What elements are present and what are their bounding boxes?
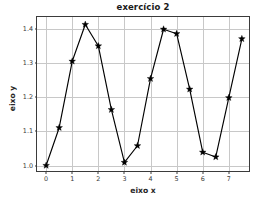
y-tick-label: 1.1 (23, 127, 33, 135)
data-point-marker (43, 162, 50, 168)
x-tick-mark (202, 171, 203, 174)
x-tick-label: 7 (227, 175, 231, 183)
y-axis-label: eixo y (8, 69, 17, 129)
data-point-marker (134, 142, 141, 148)
series-markers (43, 21, 245, 168)
y-tick-label: 1.4 (23, 25, 33, 33)
series-line (46, 24, 242, 165)
x-tick-mark (150, 171, 151, 174)
data-point-marker (56, 124, 63, 130)
y-tick-label: 1.0 (23, 162, 33, 170)
x-tick-mark (228, 171, 229, 174)
data-point-marker (212, 153, 219, 159)
x-tick-label: 0 (44, 175, 48, 183)
x-tick-label: 1 (70, 175, 74, 183)
x-tick-label: 5 (175, 175, 179, 183)
x-tick-mark (176, 171, 177, 174)
x-tick-label: 3 (122, 175, 126, 183)
plot-area: 1.01.11.21.31.4 01234567 (36, 16, 250, 172)
y-tick-label: 1.3 (23, 59, 33, 67)
x-tick-mark (72, 171, 73, 174)
data-point-marker (199, 149, 206, 155)
x-tick-label: 6 (201, 175, 205, 183)
x-tick-label: 2 (96, 175, 100, 183)
x-tick-mark (124, 171, 125, 174)
chart-figure: exercício 2 1.01.11.21.31.4 01234567 eix… (0, 0, 266, 203)
chart-title: exercício 2 (36, 2, 250, 12)
x-tick-mark (98, 171, 99, 174)
data-point-marker (82, 21, 89, 27)
x-tick-label: 4 (148, 175, 152, 183)
y-tick-label: 1.2 (23, 93, 33, 101)
x-tick-mark (46, 171, 47, 174)
data-series-layer (37, 17, 249, 171)
x-axis-label: eixo x (36, 186, 250, 195)
